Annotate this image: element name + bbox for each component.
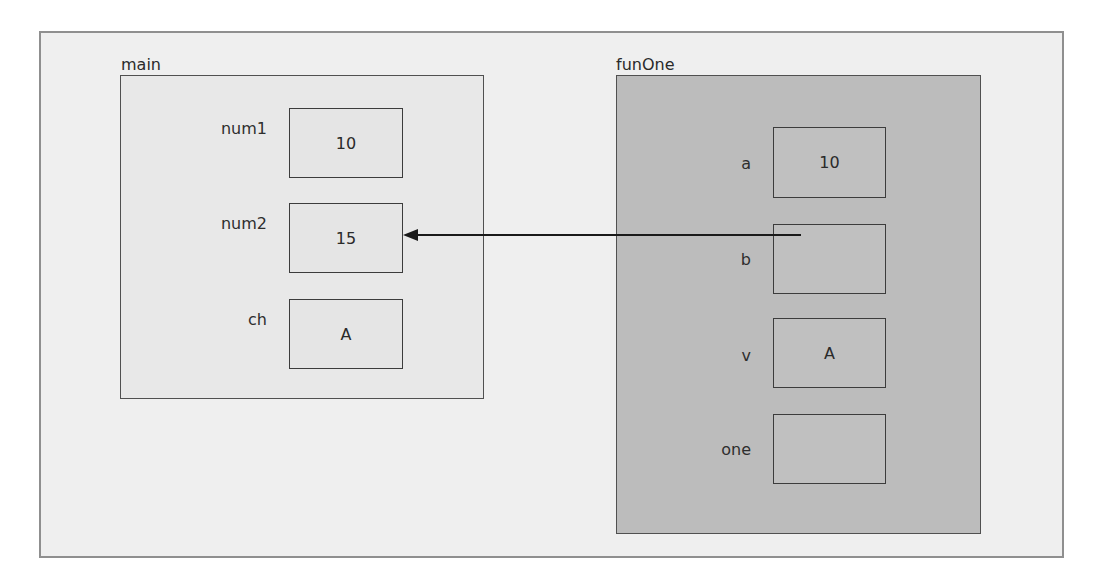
var-label-v: v [671, 346, 751, 365]
cell-value: 10 [336, 134, 356, 153]
funOne-frame: a 10 b v A one [616, 75, 981, 534]
var-label-b: b [671, 250, 751, 269]
var-label-a: a [671, 154, 751, 173]
cell-one [773, 414, 886, 484]
cell-b [773, 224, 886, 294]
var-label-ch: ch [187, 310, 267, 329]
funOne-frame-title: funOne [616, 56, 675, 74]
var-label-num2: num2 [187, 214, 267, 233]
var-label-num1: num1 [187, 119, 267, 138]
cell-v: A [773, 318, 886, 388]
cell-num1: 10 [289, 108, 403, 178]
main-frame: num1 10 num2 15 ch A [120, 75, 484, 399]
main-frame-title: main [121, 56, 161, 74]
cell-ch: A [289, 299, 403, 369]
cell-value: A [341, 325, 352, 344]
cell-value: 15 [336, 229, 356, 248]
cell-a: 10 [773, 127, 886, 198]
var-label-one: one [671, 440, 751, 459]
cell-value: 10 [819, 153, 839, 172]
cell-value: A [824, 344, 835, 363]
cell-num2: 15 [289, 203, 403, 273]
